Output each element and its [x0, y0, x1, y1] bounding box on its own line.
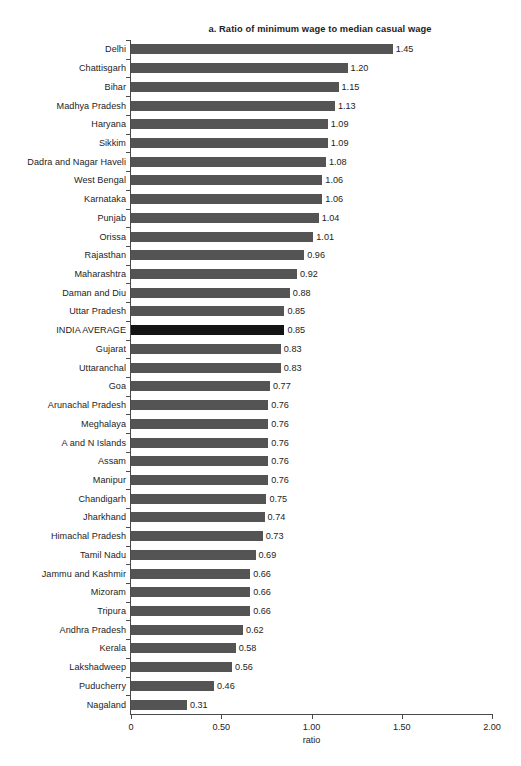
- bar-value-label: 0.66: [250, 569, 271, 579]
- bar-row: Tripura0.66: [0, 602, 521, 621]
- bar-value-label: 0.69: [256, 550, 277, 560]
- bar-category-label: Puducherry: [79, 681, 126, 691]
- bar-value-label: 0.83: [281, 363, 302, 373]
- y-axis-tick: [126, 302, 130, 303]
- bar-value-label: 0.73: [263, 531, 284, 541]
- bar: [131, 643, 236, 653]
- bar-category-label: Gujarat: [96, 344, 126, 354]
- y-axis-tick: [126, 190, 130, 191]
- bar: [131, 175, 322, 185]
- bar-value-label: 1.01: [313, 232, 334, 242]
- bar-category-label: Tamil Nadu: [80, 550, 126, 560]
- bar-row: Tamil Nadu0.69: [0, 546, 521, 565]
- x-axis-tick: [312, 714, 313, 719]
- bar-chart: a. Ratio of minimum wage to median casua…: [0, 0, 521, 766]
- x-axis-tick: [402, 714, 403, 719]
- bar-row: Orissa1.01: [0, 227, 521, 246]
- bar-row: A and N Islands0.76: [0, 433, 521, 452]
- bar-category-label: Karnataka: [84, 194, 126, 204]
- bar-category-label: Uttar Pradesh: [69, 306, 126, 316]
- bar-row: Lakshadweep0.56: [0, 658, 521, 677]
- bar: [131, 494, 266, 504]
- y-axis-tick: [126, 452, 130, 453]
- bar: [131, 306, 284, 316]
- bar-row: Dadra and Nagar Haveli1.08: [0, 152, 521, 171]
- bar-category-label: Manipur: [93, 475, 126, 485]
- bar-row: Jammu and Kashmir0.66: [0, 564, 521, 583]
- bar: [131, 82, 339, 92]
- bar-row: Daman and Diu0.88: [0, 283, 521, 302]
- bar: [131, 475, 268, 485]
- bar: [131, 232, 313, 242]
- bar-value-label: 0.77: [270, 381, 291, 391]
- bar-row: Assam0.76: [0, 452, 521, 471]
- bar-category-label: Andhra Pradesh: [60, 625, 126, 635]
- bar: [131, 438, 268, 448]
- y-axis-tick: [126, 546, 130, 547]
- bar-category-label: Mizoram: [91, 587, 126, 597]
- bar-row: Andhra Pradesh0.62: [0, 620, 521, 639]
- bar-value-label: 1.09: [328, 138, 349, 148]
- bar: [131, 325, 284, 335]
- bar-category-label: INDIA AVERAGE: [56, 325, 126, 335]
- bar: [131, 587, 250, 597]
- bar: [131, 531, 263, 541]
- bar-row: Mizoram0.66: [0, 583, 521, 602]
- y-axis-tick: [126, 583, 130, 584]
- bar: [131, 512, 265, 522]
- bar: [131, 344, 281, 354]
- bar-value-label: 0.31: [187, 700, 208, 710]
- bar: [131, 269, 297, 279]
- y-axis-tick: [126, 489, 130, 490]
- bar-row: Meghalaya0.76: [0, 414, 521, 433]
- x-axis-tick: [221, 714, 222, 719]
- bar-value-label: 1.13: [335, 101, 356, 111]
- bar: [131, 101, 335, 111]
- bar-category-label: A and N Islands: [62, 438, 126, 448]
- bar-category-label: Chandigarh: [78, 494, 126, 504]
- bar-row: Nagaland0.31: [0, 695, 521, 714]
- bar: [131, 213, 319, 223]
- bar-category-label: Himachal Pradesh: [51, 531, 126, 541]
- bar-category-label: Nagaland: [87, 700, 126, 710]
- y-axis-tick: [126, 265, 130, 266]
- bar: [131, 400, 268, 410]
- bar-row: West Bengal1.06: [0, 171, 521, 190]
- bar-value-label: 1.08: [326, 157, 347, 167]
- bar-row: Madhya Pradesh1.13: [0, 96, 521, 115]
- y-axis-tick: [126, 658, 130, 659]
- bar-row: Karnataka1.06: [0, 190, 521, 209]
- x-axis-title: ratio: [131, 735, 492, 745]
- bar-row: Maharashtra0.92: [0, 265, 521, 284]
- bar-value-label: 0.66: [250, 606, 271, 616]
- y-axis-tick: [126, 677, 130, 678]
- y-axis-tick: [126, 414, 130, 415]
- bar-category-label: Maharashtra: [74, 269, 126, 279]
- bar-category-label: Orissa: [99, 232, 126, 242]
- bar-category-label: Lakshadweep: [69, 662, 126, 672]
- bar-category-label: Jammu and Kashmir: [42, 569, 126, 579]
- bar-value-label: 0.46: [214, 681, 235, 691]
- bar: [131, 363, 281, 373]
- bar-value-label: 0.62: [243, 625, 264, 635]
- bar-row: INDIA AVERAGE0.85: [0, 321, 521, 340]
- bar: [131, 157, 326, 167]
- bar: [131, 569, 250, 579]
- bar-row: Manipur0.76: [0, 471, 521, 490]
- bar-value-label: 1.09: [328, 119, 349, 129]
- bar-category-label: Chattisgarh: [79, 63, 126, 73]
- bar-row: Chandigarh0.75: [0, 489, 521, 508]
- y-axis-tick: [126, 321, 130, 322]
- bar-value-label: 0.85: [284, 325, 305, 335]
- x-axis-tick-label: 1.50: [393, 722, 411, 732]
- bar-category-label: Assam: [98, 456, 126, 466]
- x-axis-tick-label: 0.50: [212, 722, 230, 732]
- bar-category-label: Uttaranchal: [79, 363, 126, 373]
- bar-value-label: 1.15: [339, 82, 360, 92]
- bar-value-label: 0.75: [266, 494, 287, 504]
- bar-category-label: Madhya Pradesh: [57, 101, 126, 111]
- bar-value-label: 0.92: [297, 269, 318, 279]
- y-axis-tick: [126, 246, 130, 247]
- bar-row: Punjab1.04: [0, 209, 521, 228]
- bar-row: Chattisgarh1.20: [0, 59, 521, 78]
